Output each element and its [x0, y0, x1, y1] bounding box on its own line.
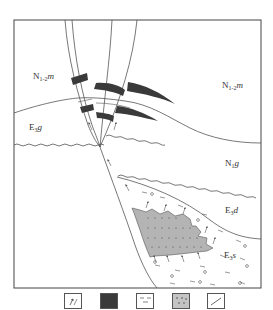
legend-fault	[207, 293, 225, 309]
unconformity-upper	[14, 144, 104, 146]
mudstone-dash-icon	[137, 294, 153, 308]
unconformity-lower	[118, 175, 256, 198]
sand-body	[132, 208, 213, 257]
geological-cross-section: N1-2m N1-2m E3g N1g E3d E3s	[0, 0, 273, 292]
sandstone-dot-icon	[173, 294, 189, 308]
label-e3s: E3s	[224, 250, 237, 261]
dark-band	[127, 82, 175, 104]
label-e3g: E3g	[29, 122, 43, 133]
legend-migration-arrow	[64, 293, 82, 309]
migration-arrow-icon	[65, 294, 81, 308]
legend-dark-layer	[100, 293, 118, 309]
legend-sandstone	[172, 293, 190, 309]
fault-line-a	[65, 20, 100, 147]
fault-line-icon	[208, 294, 224, 308]
boundary-n12m-base	[14, 98, 261, 143]
label-n1g: N1g	[225, 158, 240, 169]
label-n12m-right: N1-2m	[222, 80, 244, 91]
legend-mudstone	[136, 293, 154, 309]
dark-band	[96, 112, 114, 122]
legend	[0, 292, 273, 310]
unconformity-upper-right	[106, 135, 165, 145]
label-e3d: E3d	[225, 205, 239, 216]
diagram-frame	[14, 20, 261, 288]
label-n12m-left: N1-2m	[33, 71, 55, 82]
dark-band	[94, 83, 125, 96]
